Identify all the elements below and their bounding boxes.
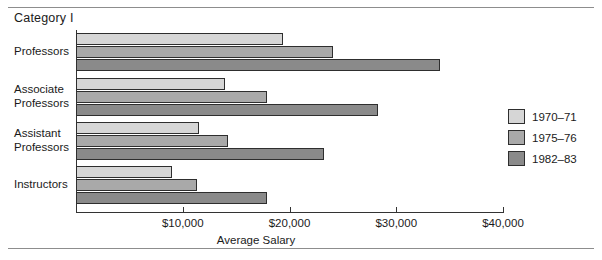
legend-item: 1975–76 <box>508 127 577 148</box>
legend-swatch <box>508 151 525 166</box>
category-label: Professors <box>14 45 74 59</box>
page-title: Category I <box>14 11 74 25</box>
x-axis-title-text: Average Salary <box>217 234 295 246</box>
x-tick-label: $20,000 <box>269 217 311 229</box>
category-label: AssistantProfessors <box>14 127 74 154</box>
top-divider-rule <box>8 7 594 8</box>
bar <box>76 104 378 116</box>
legend-label: 1982–83 <box>532 153 577 165</box>
x-tick-mark <box>396 207 397 213</box>
bar <box>76 135 228 147</box>
bar <box>76 148 324 160</box>
category-label-line: Associate <box>14 83 74 97</box>
bar <box>76 33 283 45</box>
bottom-divider-rule <box>8 248 594 249</box>
x-tick-mark <box>503 207 504 213</box>
category-label-line: Professors <box>14 97 74 111</box>
bar <box>76 91 267 103</box>
legend-item: 1970–71 <box>508 106 577 127</box>
x-tick-mark <box>183 207 184 213</box>
legend-item: 1982–83 <box>508 148 577 169</box>
legend-swatch <box>508 130 525 145</box>
legend-label: 1970–71 <box>532 111 577 123</box>
x-tick-mark <box>290 207 291 213</box>
category-label-line: Assistant <box>14 127 74 141</box>
bar <box>76 166 172 178</box>
bar <box>76 78 225 90</box>
bar <box>76 179 197 191</box>
legend-swatch <box>508 109 525 124</box>
plot-area <box>76 30 503 212</box>
category-label: AssociateProfessors <box>14 83 74 110</box>
category-label-line: Professors <box>14 45 74 59</box>
bar <box>76 46 333 58</box>
x-tick-label: $40,000 <box>482 217 524 229</box>
legend: 1970–711975–761982–83 <box>508 106 577 169</box>
chart-figure: Category I ProfessorsAssociateProfessors… <box>0 0 602 260</box>
bar <box>76 59 440 71</box>
x-axis-title: Average Salary <box>0 234 602 246</box>
category-label-line: Instructors <box>14 178 74 192</box>
category-label: Instructors <box>14 178 74 192</box>
legend-label: 1975–76 <box>532 132 577 144</box>
category-label-line: Professors <box>14 141 74 155</box>
bar <box>76 192 267 204</box>
bar <box>76 122 199 134</box>
x-tick-label: $30,000 <box>375 217 417 229</box>
x-tick-label: $10,000 <box>162 217 204 229</box>
